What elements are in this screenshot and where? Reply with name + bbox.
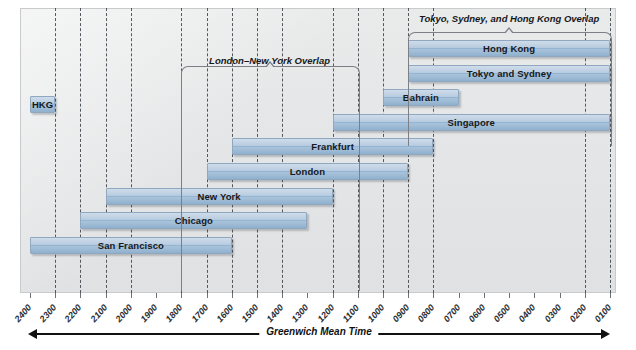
bar-label: San Francisco bbox=[98, 240, 164, 251]
chart-root: HKGHong KongTokyo and SydneyBahrainSinga… bbox=[0, 0, 636, 350]
axis-tick-2100 bbox=[106, 293, 107, 298]
london-new-york-overlap-bracket bbox=[181, 66, 360, 291]
axis-tick-0200 bbox=[585, 293, 586, 298]
axis-tick-label-1300: 1300 bbox=[290, 302, 311, 324]
axis-label: Greenwich Mean Time bbox=[259, 326, 378, 337]
axis-tick-1800 bbox=[181, 293, 182, 298]
axis-tick-1100 bbox=[358, 293, 359, 298]
tokyo-sydney-hong-kong-overlap-bracket-tick-icon bbox=[504, 27, 514, 33]
axis-tick-1600 bbox=[232, 293, 233, 298]
axis-tick-label-1600: 1600 bbox=[214, 302, 235, 324]
axis-tick-label-0600: 0600 bbox=[467, 302, 488, 324]
axis-tick-label-2400: 2400 bbox=[13, 302, 34, 324]
axis-tick-label-1800: 1800 bbox=[164, 302, 185, 324]
axis-tick-label-1500: 1500 bbox=[240, 302, 261, 324]
axis-tick-label-1900: 1900 bbox=[139, 302, 160, 324]
tokyo-sydney-hong-kong-overlap-bracket bbox=[408, 32, 612, 146]
axis-tick-1700 bbox=[207, 293, 208, 298]
axis-tick-2000 bbox=[131, 293, 132, 298]
axis-tick-label-1000: 1000 bbox=[366, 302, 387, 324]
axis-tick-0700 bbox=[459, 293, 460, 298]
axis-tick-0400 bbox=[534, 293, 535, 298]
axis-tick-label-2300: 2300 bbox=[38, 302, 59, 324]
axis-tick-0800 bbox=[433, 293, 434, 298]
arrow-right-icon bbox=[601, 329, 610, 339]
axis-tick-1300 bbox=[307, 293, 308, 298]
axis-tick-0100 bbox=[610, 293, 611, 298]
axis-tick-label-1700: 1700 bbox=[189, 302, 210, 324]
axis-tick-label-0100: 0100 bbox=[593, 302, 614, 324]
axis-caption: Greenwich Mean Time bbox=[28, 327, 610, 341]
axis-tick-label-0900: 0900 bbox=[391, 302, 412, 324]
axis-tick-label-0700: 0700 bbox=[441, 302, 462, 324]
bar-label: HKG bbox=[32, 99, 53, 110]
axis-tick-label-2000: 2000 bbox=[113, 302, 134, 324]
bar-hkg: HKG bbox=[30, 96, 55, 113]
axis-tick-label-2100: 2100 bbox=[88, 302, 109, 324]
axis-tick-1200 bbox=[333, 293, 334, 298]
axis-tick-2200 bbox=[80, 293, 81, 298]
axis-tick-label-0500: 0500 bbox=[492, 302, 513, 324]
axis-tick-label-1400: 1400 bbox=[265, 302, 286, 324]
axis-tick-label-0300: 0300 bbox=[542, 302, 563, 324]
tokyo-sydney-hong-kong-overlap-label: Tokyo, Sydney, and Hong Kong Overlap bbox=[408, 13, 610, 24]
axis-tick-label-0800: 0800 bbox=[416, 302, 437, 324]
axis-tick-0500 bbox=[509, 293, 510, 298]
axis-tick-2400 bbox=[30, 293, 31, 298]
axis-tick-1900 bbox=[156, 293, 157, 298]
axis-tick-1400 bbox=[282, 293, 283, 298]
axis-tick-label-1100: 1100 bbox=[340, 303, 360, 324]
axis-tick-0300 bbox=[560, 293, 561, 298]
london-new-york-overlap-label: London–New York Overlap bbox=[181, 55, 358, 66]
axis-tick-label-2200: 2200 bbox=[63, 302, 84, 324]
axis-tick-label-0200: 0200 bbox=[567, 302, 588, 324]
axis-tick-0900 bbox=[408, 293, 409, 298]
axis-tick-1500 bbox=[257, 293, 258, 298]
axis-tick-2300 bbox=[55, 293, 56, 298]
axis-tick-0600 bbox=[484, 293, 485, 298]
axis-tick-1000 bbox=[383, 293, 384, 298]
axis-tick-label-0400: 0400 bbox=[517, 302, 538, 324]
axis-tick-label-1200: 1200 bbox=[315, 302, 336, 324]
